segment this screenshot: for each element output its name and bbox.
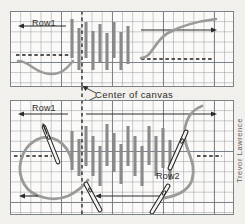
row2-arrow-bottom-right xyxy=(95,193,160,198)
bottom-panel-drawing xyxy=(10,100,234,215)
artist-credit: Trevor Lawrence xyxy=(235,118,244,183)
row2-label-bottom: Row2 xyxy=(156,172,180,181)
center-of-canvas-label: Center of canvas xyxy=(95,90,173,100)
bottom-panel xyxy=(10,100,234,215)
figure-root: Row1 Center of canvas xyxy=(0,0,245,224)
row-arrow-bottom-right xyxy=(86,111,217,116)
needle-upper-right xyxy=(170,132,186,168)
row1-label-bottom: Row1 xyxy=(32,104,56,113)
